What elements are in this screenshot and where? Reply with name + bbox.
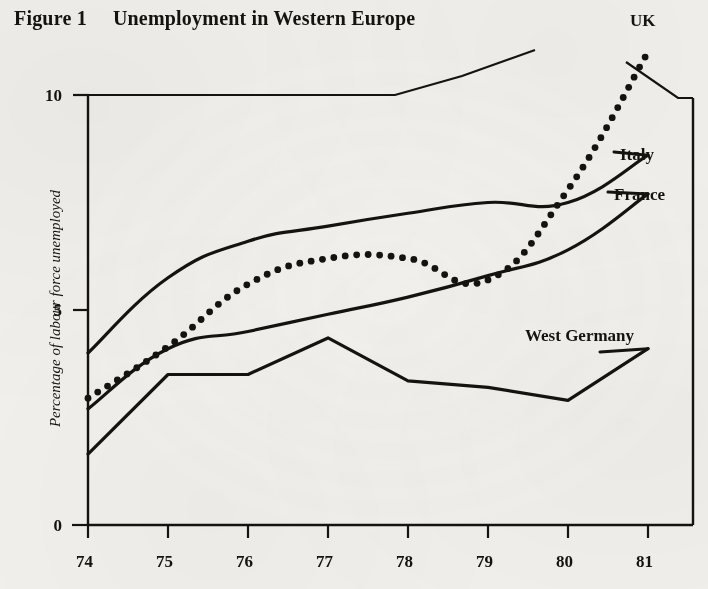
uk-dot [451, 277, 458, 284]
uk-dot [614, 104, 621, 111]
uk-dot [609, 114, 616, 121]
uk-dot [495, 271, 502, 278]
uk-dot [198, 316, 205, 323]
uk-dot [180, 331, 187, 338]
uk-dot [421, 260, 428, 267]
italy-leader [614, 152, 648, 155]
uk-dot [376, 252, 383, 259]
uk-dot [104, 383, 111, 390]
uk-dot [597, 134, 604, 141]
uk-dot [560, 192, 567, 199]
plot-frame [88, 50, 693, 525]
uk-dot [573, 173, 580, 180]
uk-dot [124, 371, 131, 378]
uk-dot [521, 249, 528, 256]
uk-dot [631, 74, 638, 81]
uk-dot [171, 338, 178, 345]
uk-dot [85, 395, 92, 402]
uk-dot [285, 263, 292, 270]
uk-dot [143, 358, 150, 365]
uk-dot [330, 254, 337, 261]
uk-dot [189, 324, 196, 331]
uk-dot [620, 94, 627, 101]
uk-dot [513, 258, 520, 265]
uk-dot [215, 301, 222, 308]
uk-dot [410, 256, 417, 263]
axis-ticks [72, 95, 648, 538]
data-series-group [85, 16, 649, 454]
uk-dot [308, 258, 315, 265]
uk-dot [133, 364, 140, 371]
uk-dot [586, 154, 593, 161]
uk-dot [462, 280, 469, 287]
uk-dot [388, 253, 395, 260]
france-leader [608, 192, 648, 194]
uk-dot [274, 266, 281, 273]
uk-dot [114, 377, 121, 384]
uk-dot [432, 265, 439, 272]
uk-dot [485, 276, 492, 283]
series-path-west-germany [88, 338, 648, 454]
uk-dot [254, 276, 261, 283]
uk-dot [94, 389, 101, 396]
uk-dot [535, 231, 542, 238]
chart-plot [0, 0, 708, 589]
uk-dot [162, 345, 169, 352]
uk-dot [580, 164, 587, 171]
uk-dot [528, 240, 535, 247]
uk-dot [365, 251, 372, 258]
uk-dot [541, 221, 548, 228]
uk-dot [642, 54, 649, 61]
uk-dot [399, 254, 406, 261]
uk-dot [153, 352, 160, 359]
uk-dot [353, 251, 360, 258]
uk-dot [636, 64, 643, 71]
uk-dot [206, 308, 213, 315]
uk-dot [504, 265, 511, 272]
uk-dot [592, 144, 599, 151]
uk-leader [624, 16, 648, 52]
uk-dot [554, 202, 561, 209]
uk-dot [567, 183, 574, 190]
uk-dot [441, 271, 448, 278]
uk-dot [342, 253, 349, 260]
uk-dot [296, 260, 303, 267]
uk-dot [264, 271, 271, 278]
uk-dot [319, 256, 326, 263]
figure-page: Figure 1Unemployment in Western Europe P… [0, 0, 708, 589]
uk-dot [243, 281, 250, 288]
uk-dot [474, 280, 481, 287]
uk-dot [603, 124, 610, 131]
uk-dot [234, 287, 241, 294]
uk-dot [224, 294, 231, 301]
series-path-france [88, 194, 648, 409]
uk-dot [625, 84, 632, 91]
uk-dot [547, 211, 554, 218]
